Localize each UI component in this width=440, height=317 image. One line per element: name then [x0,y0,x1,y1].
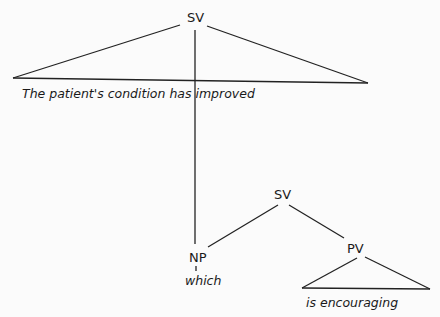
top-triangle-left-edge [13,25,180,78]
top-triangle-right-edge [207,26,368,83]
lower-sv-to-np-line [208,205,278,247]
pv-triangle-right-edge [365,257,430,289]
pv-triangle-base [302,288,430,289]
top-sv-label: SV [187,10,204,25]
pv-phrase-text: is encouraging [306,295,398,310]
top-triangle-base [13,78,368,83]
np-label: NP [189,250,207,265]
which-text: which [185,273,221,288]
top-phrase-text: The patient's condition has improved [22,86,255,101]
pv-triangle-left-edge [302,258,357,288]
lower-sv-label: SV [274,187,291,202]
lower-sv-to-pv-line [289,205,344,238]
syntax-tree-diagram: SV The patient's condition has improved … [0,0,440,317]
pv-label: PV [347,241,364,256]
